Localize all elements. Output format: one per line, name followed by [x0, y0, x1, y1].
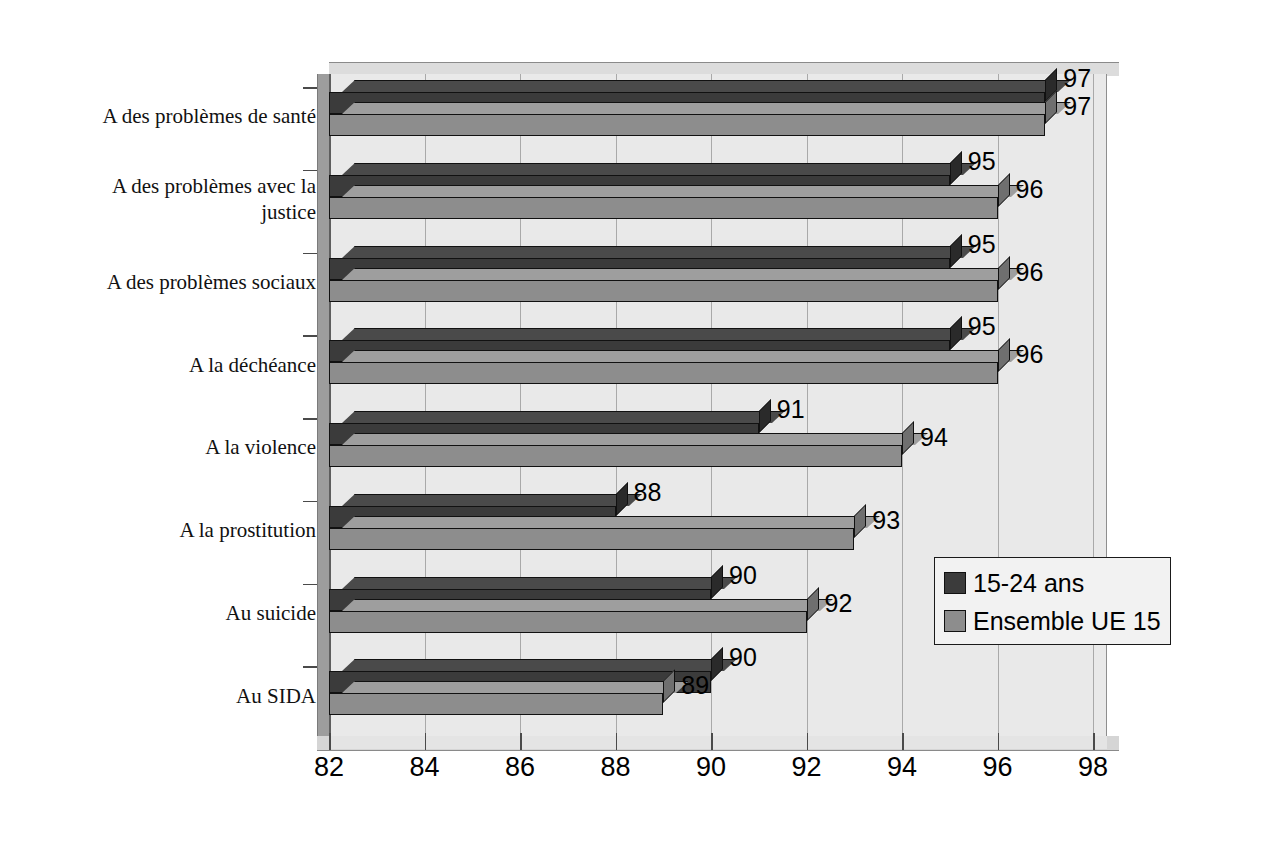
category-label-6: Au suicide [26, 601, 316, 627]
bar-3-series-1-front-face [329, 362, 998, 384]
x-tick-98 [1093, 733, 1095, 750]
x-tick-94 [902, 733, 904, 750]
value-label-0-series-1: 97 [1063, 92, 1091, 121]
bar-1-series-1-top-face [342, 185, 1023, 197]
bar-5-series-1-top-face [342, 516, 880, 528]
x-tick-90 [711, 733, 713, 750]
x-tick-label-86: 86 [505, 752, 535, 783]
bar-1-series-0-top-face [342, 163, 976, 175]
x-tick-92 [807, 733, 809, 750]
bar-7-series-1-front-face [329, 693, 663, 715]
bar-7-series-1-top-face [342, 681, 689, 693]
bar-0-series-1-top-face [342, 102, 1071, 114]
x-tick-88 [616, 733, 618, 750]
bar-4-series-0-top-face [342, 411, 785, 423]
category-label-7: Au SIDA [26, 684, 316, 710]
category-label-3-line-0: A la déchéance [26, 353, 316, 379]
x-tick-label-92: 92 [791, 752, 821, 783]
value-label-4-series-1: 94 [920, 423, 948, 452]
category-label-7-line-0: Au SIDA [26, 684, 316, 710]
plot-floor-face [329, 736, 1107, 749]
bar-0-series-1-front-face [329, 114, 1045, 136]
category-label-4-line-0: A la violence [26, 435, 316, 461]
value-label-7-series-1: 89 [681, 671, 709, 700]
category-label-2-line-0: A des problèmes sociaux [26, 270, 316, 296]
value-label-1-series-0: 95 [968, 147, 996, 176]
legend-label-1: Ensemble UE 15 [973, 607, 1161, 636]
category-tick-1 [303, 170, 317, 172]
x-tick-label-90: 90 [696, 752, 726, 783]
value-label-5-series-1: 93 [872, 506, 900, 535]
category-tick-3 [303, 335, 317, 337]
bar-6-series-1-front-face [329, 611, 807, 633]
category-tick-4 [303, 418, 317, 420]
value-label-2-series-0: 95 [968, 230, 996, 259]
bar-3-series-1-top-face [342, 350, 1023, 362]
x-tick-label-98: 98 [1078, 752, 1108, 783]
bar-5-series-0-top-face [342, 494, 641, 506]
x-tick-label-88: 88 [600, 752, 630, 783]
value-label-6-series-1: 92 [825, 589, 853, 618]
legend-item-1[interactable]: Ensemble UE 15 [944, 602, 1161, 640]
category-tick-5 [303, 501, 317, 503]
x-tick-label-84: 84 [409, 752, 439, 783]
category-tick-7 [303, 666, 317, 668]
value-label-4-series-0: 91 [777, 395, 805, 424]
category-label-5-line-0: A la prostitution [26, 518, 316, 544]
bar-6-series-1-top-face [342, 599, 832, 611]
value-label-7-series-0: 90 [729, 643, 757, 672]
category-label-1-line-1: justice [26, 200, 316, 226]
category-tick-6 [303, 584, 317, 586]
x-tick-82 [329, 733, 331, 750]
value-label-5-series-0: 88 [634, 478, 662, 507]
category-tick-0 [303, 87, 317, 89]
x-tick-label-94: 94 [887, 752, 917, 783]
bar-7-series-0-top-face [342, 659, 737, 671]
bar-4-series-1-front-face [329, 445, 902, 467]
value-label-6-series-0: 90 [729, 561, 757, 590]
bar-2-series-1-top-face [342, 268, 1023, 280]
category-label-1: A des problèmes avec lajustice [26, 174, 316, 225]
bar-2-series-0-top-face [342, 246, 976, 258]
category-label-4: A la violence [26, 435, 316, 461]
category-label-6-line-0: Au suicide [26, 601, 316, 627]
value-label-1-series-1: 96 [1016, 175, 1044, 204]
bar-0-series-0-top-face [342, 80, 1071, 92]
value-label-3-series-0: 95 [968, 312, 996, 341]
category-label-2: A des problèmes sociaux [26, 270, 316, 296]
x-tick-84 [425, 733, 427, 750]
chart-legend[interactable]: 15-24 ans Ensemble UE 15 [934, 557, 1171, 645]
x-tick-label-82: 82 [314, 752, 344, 783]
category-label-0: A des problèmes de santé [26, 104, 316, 130]
category-label-3: A la déchéance [26, 353, 316, 379]
bar-1-series-1-front-face [329, 197, 998, 219]
bar-chart: A des problèmes de santéA des problèmes … [0, 0, 1279, 862]
bar-6-series-0-top-face [342, 577, 737, 589]
x-tick-86 [520, 733, 522, 750]
bar-2-series-1-front-face [329, 280, 998, 302]
value-label-2-series-1: 96 [1016, 258, 1044, 287]
category-tick-2 [303, 253, 317, 255]
value-label-0-series-0: 97 [1063, 64, 1091, 93]
category-label-5: A la prostitution [26, 518, 316, 544]
bar-5-series-1-front-face [329, 528, 854, 550]
bar-3-series-0-top-face [342, 328, 976, 340]
x-tick-label-96: 96 [982, 752, 1012, 783]
category-label-0-line-0: A des problèmes de santé [26, 104, 316, 130]
x-tick-96 [998, 733, 1000, 750]
category-label-1-line-0: A des problèmes avec la [26, 174, 316, 200]
bar-4-series-1-top-face [342, 433, 928, 445]
value-label-3-series-1: 96 [1016, 340, 1044, 369]
legend-label-0: 15-24 ans [973, 569, 1084, 598]
legend-swatch-icon-1 [944, 610, 966, 632]
legend-swatch-icon-0 [944, 572, 966, 594]
legend-item-0[interactable]: 15-24 ans [944, 564, 1161, 602]
category-axis-line [329, 74, 331, 737]
